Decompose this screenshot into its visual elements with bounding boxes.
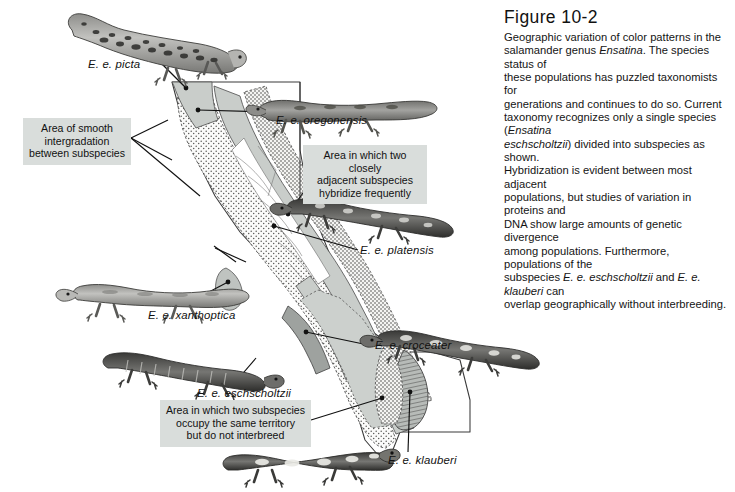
caption-block: Figure 10-2 Geographic variation of colo… — [504, 6, 728, 311]
callout-line: Area in which two subspecies — [166, 404, 305, 417]
caption-line-2: salamander genus Ensatina. The species s… — [504, 44, 728, 71]
callout-line: hybridize frequently — [309, 187, 421, 200]
caption-line: these populations has puzzled taxonomist… — [504, 71, 728, 98]
caption-line: populations, but studies of variation in… — [504, 191, 728, 218]
callout-line: occupy the same territory — [166, 417, 305, 430]
species-label-picta: E. e. picta — [88, 58, 140, 70]
salamander-picta — [68, 14, 246, 86]
callout-line: Area in which two closely — [309, 149, 421, 174]
caption-line: Geographic variation of color patterns i… — [504, 31, 728, 44]
callout-line: intergradation — [29, 135, 125, 148]
caption-line-5: taxonomy recognizes only a single specie… — [504, 111, 728, 138]
caption-line-6: eschscholtzii) divided into subspecies a… — [504, 138, 728, 165]
caption-line: generations and continues to do so. Curr… — [504, 98, 728, 111]
species-label-platensis: E. e. platensis — [360, 244, 434, 256]
figure-caption: Geographic variation of color patterns i… — [504, 31, 728, 311]
callout-hybridize: Area in which two closely adjacent subsp… — [303, 145, 427, 204]
species-label-croceater: E. e. croceater — [375, 339, 451, 351]
callout-line: between subspecies — [29, 147, 125, 160]
species-label-xanthoptica: E. e. xanthoptica — [148, 309, 235, 321]
species-label-eschscholtzii: E. e. eschscholtzii — [197, 387, 291, 399]
figure-container: Area of smooth intergradation between su… — [0, 0, 735, 492]
salamander-klauberi — [223, 449, 400, 487]
callout-line: but do not interbreed — [166, 429, 305, 442]
caption-line: among populations. Furthermore, populati… — [504, 245, 728, 272]
caption-line: overlap geographically without interbree… — [504, 298, 728, 311]
caption-line-11: subspecies E. e. eschscholtzii and E. e.… — [504, 271, 728, 298]
callout-overlap: Area in which two subspecies occupy the … — [160, 400, 311, 447]
callout-line: adjacent subspecies — [309, 174, 421, 187]
species-label-klauberi: E. e. klauberi — [388, 454, 457, 466]
figure-title: Figure 10-2 — [504, 6, 728, 28]
species-label-oregonensis: E. e. oregonensis — [276, 114, 367, 126]
caption-line: Hybridization is evident between most ad… — [504, 164, 728, 191]
callout-intergradation: Area of smooth intergradation between su… — [23, 118, 131, 165]
caption-line: DNA show large amounts of genetic diverg… — [504, 218, 728, 245]
callout-line: Area of smooth — [29, 122, 125, 135]
